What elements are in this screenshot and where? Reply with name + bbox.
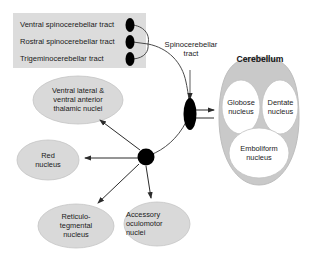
cerebellar-output-hub-node [138, 149, 155, 166]
trigeminocerebellar-tract-node [126, 52, 135, 66]
spinocerebellar-tract-annotation-line2: tract [155, 49, 227, 58]
spinocerebellar-tract-node [184, 98, 197, 130]
rostral-spinocerebellar-tract-node [126, 35, 135, 49]
tract-label-ventral-spinocerebellar: Ventral spinocerebellar tract [20, 20, 114, 29]
cerebellar-efferent-curve [150, 122, 186, 155]
hub-to-reticulotegmental-arrow [98, 164, 139, 203]
spinocerebellar-pathway-diagram: Ventral spinocerebellar tract Rostral sp… [0, 0, 312, 257]
spinocerebellar-tract-annotation: Spinocerebellar tract [155, 40, 227, 59]
globose-nucleus-shape [222, 80, 260, 134]
reticulotegmental-nucleus-shape [38, 204, 114, 248]
red-nucleus-shape [17, 140, 79, 180]
spinocerebellar-tract-annotation-line1: Spinocerebellar [155, 40, 227, 49]
dentate-nucleus-shape [262, 80, 298, 134]
cerebellum-title: Cerebellum [229, 54, 291, 64]
hub-to-thalamic-arrow [100, 120, 140, 150]
ventral-spinocerebellar-tract-node [126, 18, 135, 32]
thalamic-nuclei-shape [33, 76, 123, 124]
hub-to-accessory-oculomotor-arrow [146, 166, 151, 198]
accessory-oculomotor-nuclei-shape [124, 202, 190, 246]
tract-label-rostral-spinocerebellar: Rostral spinocerebellar tract [20, 37, 115, 46]
emboliform-nucleus-shape [229, 128, 289, 178]
tract-label-trigeminocerebellar: Trigeminocerebellar tract [20, 54, 104, 63]
